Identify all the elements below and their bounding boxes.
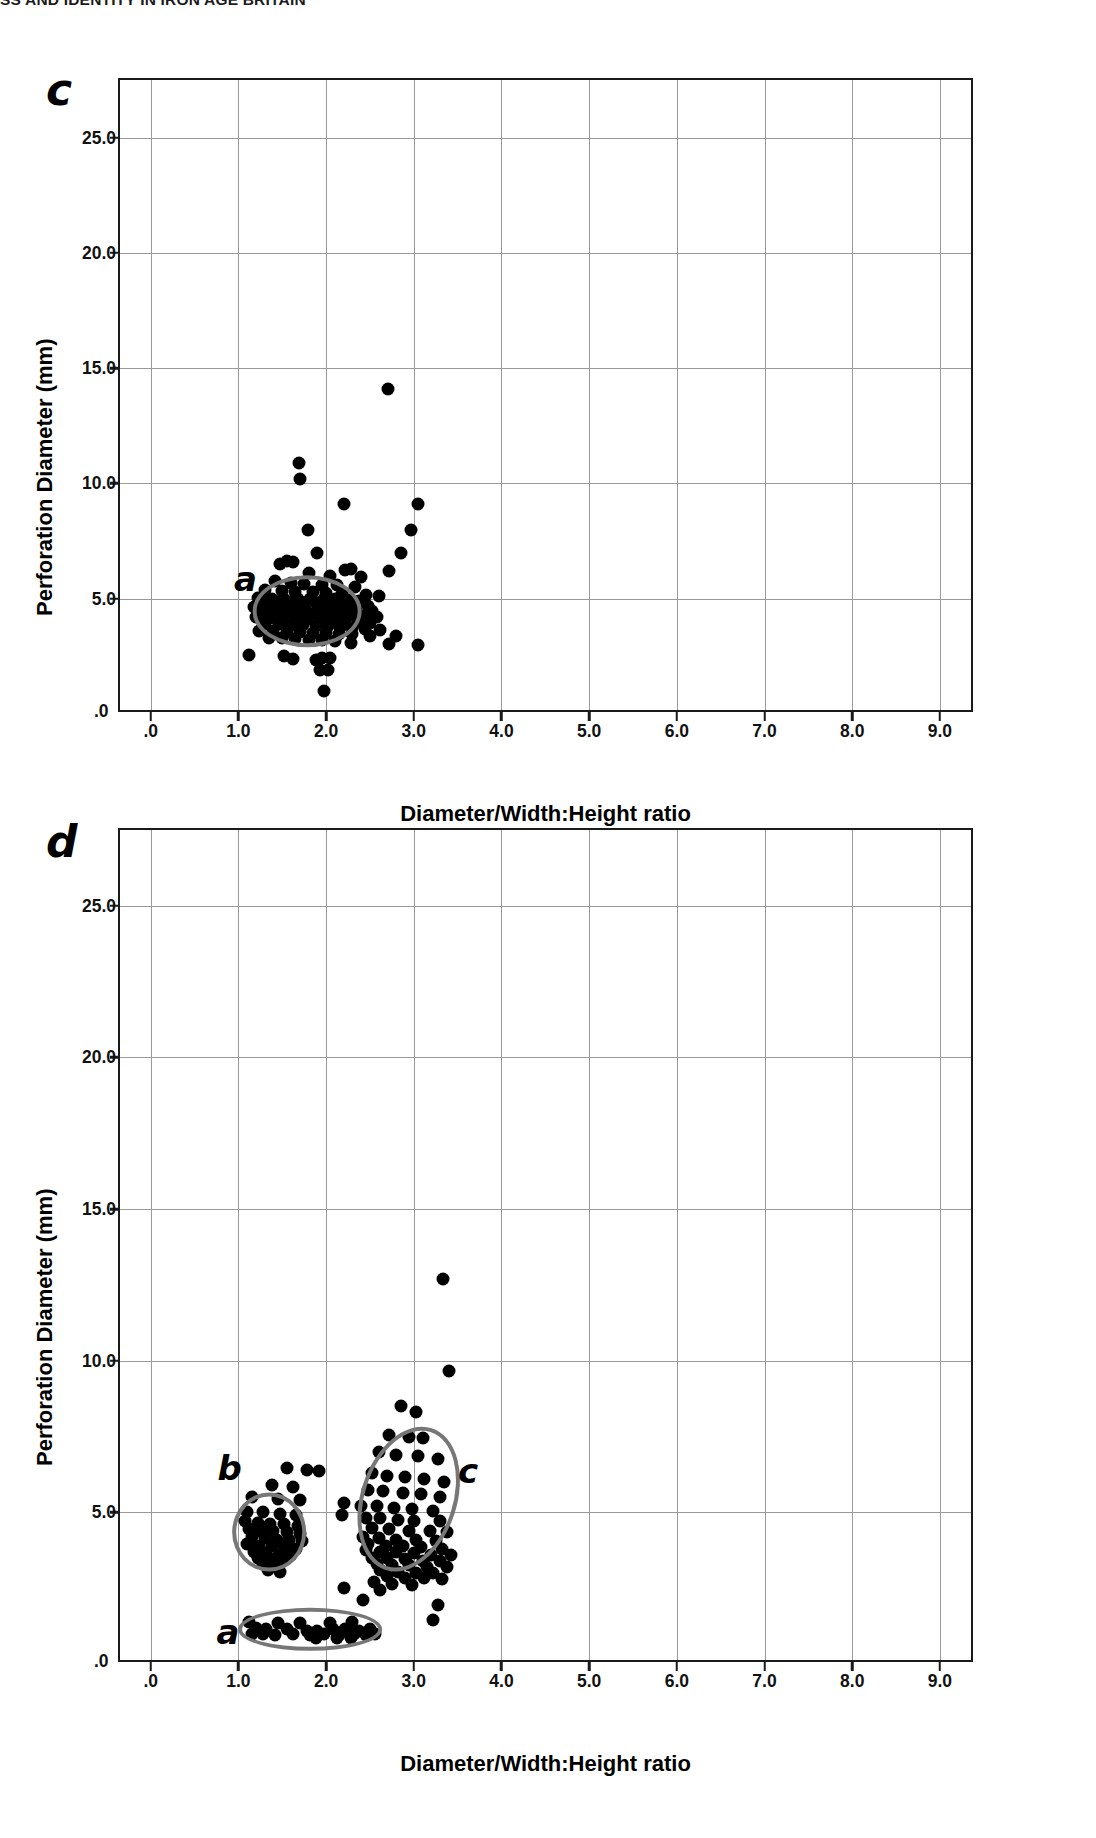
data-point [324, 651, 337, 664]
data-point [372, 590, 385, 603]
data-point [432, 1598, 445, 1611]
data-point [286, 555, 299, 568]
data-point [292, 456, 305, 469]
gridline-horizontal [120, 138, 971, 139]
gridline-vertical [852, 80, 853, 710]
data-point [406, 1579, 419, 1592]
data-point [313, 1465, 326, 1478]
data-point [311, 546, 324, 559]
x-tick-mark [588, 1660, 591, 1671]
x-tick-mark [851, 710, 854, 721]
y-tick-label: 25.0 [82, 895, 116, 916]
data-point [383, 565, 396, 578]
x-tick-label: 8.0 [840, 721, 864, 742]
x-tick-label: .0 [143, 721, 158, 742]
data-point [337, 498, 350, 511]
panel-c: c a .01.02.03.04.05.06.07.08.09.025.020.… [0, 56, 1096, 876]
y-tick-label: 10.0 [82, 473, 116, 494]
cluster-label-a: a [234, 559, 257, 599]
data-point [321, 664, 334, 677]
x-tick-mark [237, 710, 240, 721]
y-tick-label: 15.0 [82, 1199, 116, 1220]
gridline-vertical [677, 80, 678, 710]
x-tick-label: 2.0 [314, 1671, 338, 1692]
x-tick-mark [149, 710, 152, 721]
data-point [301, 523, 314, 536]
data-point [383, 637, 396, 650]
data-point [412, 638, 425, 651]
x-tick-mark [413, 710, 416, 721]
gridline-horizontal [120, 253, 971, 254]
gridline-horizontal [120, 483, 971, 484]
panel-d: d bca .01.02.03.04.05.06.07.08.09.025.02… [0, 806, 1096, 1838]
x-tick-label: 6.0 [665, 1671, 689, 1692]
data-point [436, 1272, 449, 1285]
x-tick-label: 9.0 [928, 1671, 952, 1692]
x-tick-mark [237, 1660, 240, 1671]
gridline-vertical [765, 830, 766, 1660]
gridline-vertical [940, 80, 941, 710]
x-tick-label: 8.0 [840, 1671, 864, 1692]
data-point [337, 1497, 350, 1510]
x-tick-label: 1.0 [226, 721, 250, 742]
data-point [286, 1480, 299, 1493]
y-tick-label: 5.0 [92, 588, 116, 609]
gridline-vertical [501, 830, 502, 1660]
data-point [363, 629, 376, 642]
gridline-horizontal [120, 1361, 971, 1362]
data-point [374, 1583, 387, 1596]
x-tick-mark [763, 710, 766, 721]
data-point [412, 498, 425, 511]
y-tick-label: 5.0 [92, 1502, 116, 1523]
x-tick-mark [939, 710, 942, 721]
data-point [418, 1571, 431, 1584]
x-tick-mark [149, 1660, 152, 1671]
panel-c-y-axis-title: Perforation Diameter (mm) [32, 338, 58, 616]
data-point [442, 1365, 455, 1378]
data-point [293, 472, 306, 485]
x-tick-mark [500, 710, 503, 721]
data-point [242, 649, 255, 662]
x-tick-mark [588, 710, 591, 721]
data-point [409, 1406, 422, 1419]
gridline-vertical [589, 80, 590, 710]
cluster-label-b: b [217, 1448, 241, 1488]
x-tick-label: 7.0 [752, 721, 776, 742]
x-tick-label: 4.0 [489, 1671, 513, 1692]
x-tick-mark [676, 710, 679, 721]
panel-d-plot-area: bca .01.02.03.04.05.06.07.08.09.025.020.… [118, 828, 973, 1662]
x-tick-label: 5.0 [577, 721, 601, 742]
y-tick-label: 25.0 [82, 127, 116, 148]
cluster-ellipse-c [341, 1413, 479, 1584]
x-tick-label: 2.0 [314, 721, 338, 742]
gridline-vertical [765, 80, 766, 710]
data-point [335, 1509, 348, 1522]
x-tick-label: 6.0 [665, 721, 689, 742]
x-tick-mark [939, 1660, 942, 1671]
x-tick-mark [325, 1660, 328, 1671]
cluster-ellipse-b [232, 1493, 306, 1572]
gridline-vertical [238, 80, 239, 710]
y-axis-origin-label: .0 [94, 701, 109, 722]
y-axis-origin-label: .0 [94, 1651, 109, 1672]
panel-d-letter: d [46, 816, 78, 867]
data-point [382, 382, 395, 395]
gridline-vertical [151, 830, 152, 1660]
gridline-vertical [852, 830, 853, 1660]
data-point [337, 1582, 350, 1595]
panel-d-y-axis-title: Perforation Diameter (mm) [32, 1188, 58, 1466]
y-tick-label: 10.0 [82, 1350, 116, 1371]
x-tick-label: 3.0 [402, 1671, 426, 1692]
running-head: SS AND IDENTITY IN IRON AGE BRITAIN [0, 0, 1096, 9]
data-point [394, 546, 407, 559]
x-tick-mark [325, 710, 328, 721]
y-tick-label: 15.0 [82, 358, 116, 379]
gridline-vertical [677, 830, 678, 1660]
cluster-ellipse-a [238, 1608, 382, 1650]
gridline-horizontal [120, 1209, 971, 1210]
data-point [274, 558, 287, 571]
x-tick-mark [676, 1660, 679, 1671]
x-tick-label: 1.0 [226, 1671, 250, 1692]
cluster-label-c: c [458, 1451, 478, 1491]
x-tick-mark [500, 1660, 503, 1671]
